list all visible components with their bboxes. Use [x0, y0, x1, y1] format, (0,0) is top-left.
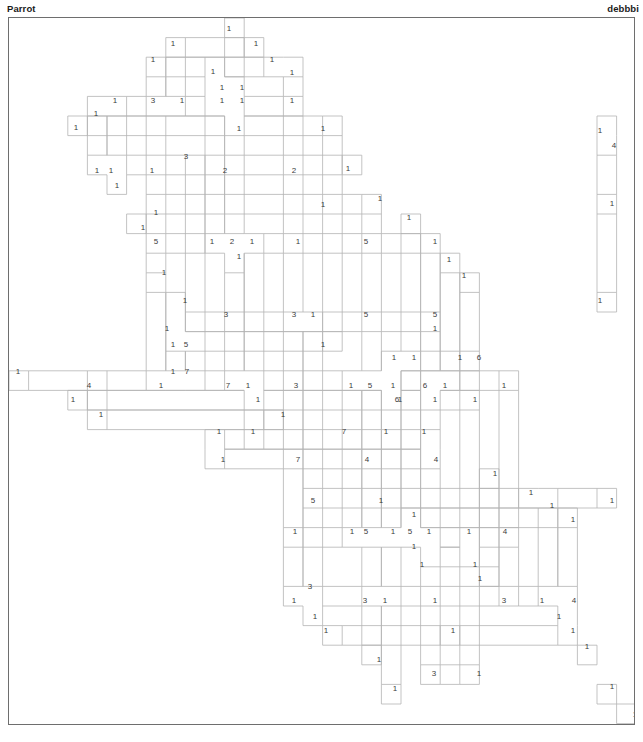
- clue-number[interactable]: 1: [217, 427, 222, 436]
- clue-number[interactable]: 5: [364, 310, 369, 319]
- clue-number[interactable]: 1: [281, 410, 286, 419]
- clue-number[interactable]: 4: [503, 527, 508, 536]
- clue-number[interactable]: 1: [237, 124, 242, 133]
- clue-number[interactable]: 1: [251, 427, 256, 436]
- clue-number[interactable]: 7: [296, 455, 301, 464]
- clue-number[interactable]: 1: [633, 710, 634, 719]
- clue-number[interactable]: 1: [540, 596, 545, 605]
- clue-number[interactable]: 1: [290, 68, 295, 77]
- clue-number[interactable]: 1: [433, 596, 438, 605]
- clue-number[interactable]: 1: [598, 126, 603, 135]
- clue-number[interactable]: 1: [159, 381, 164, 390]
- clue-number[interactable]: 1: [462, 271, 467, 280]
- clue-number[interactable]: 1: [412, 542, 417, 551]
- clue-number[interactable]: 1: [240, 96, 245, 105]
- clue-number[interactable]: 4: [434, 455, 439, 464]
- clue-number[interactable]: 3: [292, 310, 297, 319]
- clue-number[interactable]: 5: [184, 340, 189, 349]
- clue-number[interactable]: 1: [383, 596, 388, 605]
- clue-number[interactable]: 1: [502, 381, 507, 390]
- clue-number[interactable]: 5: [364, 527, 369, 536]
- clue-number[interactable]: 1: [585, 642, 590, 651]
- clue-number[interactable]: 1: [254, 39, 259, 48]
- clue-number[interactable]: 5: [364, 237, 369, 246]
- clue-number[interactable]: 5: [408, 527, 413, 536]
- clue-number[interactable]: 1: [237, 252, 242, 261]
- clue-number[interactable]: 1: [377, 655, 382, 664]
- clue-number[interactable]: 1: [220, 83, 225, 92]
- clue-number[interactable]: 1: [493, 469, 498, 478]
- clue-number[interactable]: 3: [184, 152, 189, 161]
- clue-number[interactable]: 1: [313, 612, 318, 621]
- clue-number[interactable]: 1: [321, 124, 326, 133]
- clue-number[interactable]: 1: [292, 596, 297, 605]
- clue-number[interactable]: 1: [74, 123, 79, 132]
- clue-number[interactable]: 1: [350, 527, 355, 536]
- puzzle-grid-canvas[interactable]: 1111111131111111111131221111111512115111…: [9, 18, 634, 724]
- clue-number[interactable]: 7: [342, 427, 347, 436]
- clue-number[interactable]: 7: [226, 381, 231, 390]
- clue-number[interactable]: 1: [529, 488, 534, 497]
- clue-number[interactable]: 1: [393, 684, 398, 693]
- clue-number[interactable]: 4: [365, 455, 370, 464]
- clue-number[interactable]: 1: [290, 96, 295, 105]
- clue-number[interactable]: 1: [183, 296, 188, 305]
- clue-number[interactable]: 3: [432, 669, 437, 678]
- clue-number[interactable]: 1: [16, 367, 21, 376]
- clue-number[interactable]: 1: [473, 395, 478, 404]
- clue-number[interactable]: 1: [550, 501, 555, 510]
- clue-number[interactable]: 1: [420, 560, 425, 569]
- clue-number[interactable]: 1: [165, 324, 170, 333]
- clue-number[interactable]: 5: [368, 381, 373, 390]
- clue-number[interactable]: 1: [427, 527, 432, 536]
- clue-number[interactable]: 1: [391, 381, 396, 390]
- clue-number[interactable]: 1: [71, 395, 76, 404]
- clue-number[interactable]: 1: [250, 237, 255, 246]
- clue-number[interactable]: 1: [412, 353, 417, 362]
- clue-number[interactable]: 1: [151, 55, 156, 64]
- clue-number[interactable]: 1: [610, 496, 615, 505]
- clue-number[interactable]: 3: [502, 596, 507, 605]
- clue-number[interactable]: 1: [270, 55, 275, 64]
- clue-number[interactable]: 1: [571, 515, 576, 524]
- clue-number[interactable]: 1: [392, 353, 397, 362]
- clue-number[interactable]: 3: [151, 96, 156, 105]
- clue-number[interactable]: 4: [572, 596, 577, 605]
- clue-number[interactable]: 1: [293, 527, 298, 536]
- clue-number[interactable]: 4: [612, 141, 617, 150]
- clue-number[interactable]: 1: [379, 496, 384, 505]
- clue-number[interactable]: 1: [598, 296, 603, 305]
- clue-number[interactable]: 1: [346, 164, 351, 173]
- clue-number[interactable]: 1: [433, 395, 438, 404]
- clue-number[interactable]: 1: [171, 367, 176, 376]
- clue-number[interactable]: 1: [99, 410, 104, 419]
- clue-number[interactable]: 1: [321, 200, 326, 209]
- clue-number[interactable]: 1: [422, 427, 427, 436]
- clue-number[interactable]: 1: [391, 527, 396, 536]
- clue-number[interactable]: 1: [384, 427, 389, 436]
- clue-number[interactable]: 6: [395, 395, 400, 404]
- clue-number[interactable]: 5: [433, 310, 438, 319]
- clue-number[interactable]: 3: [294, 381, 299, 390]
- clue-number[interactable]: 1: [221, 455, 226, 464]
- clue-number[interactable]: 1: [478, 574, 483, 583]
- clue-number[interactable]: 1: [433, 324, 438, 333]
- clue-number[interactable]: 5: [154, 237, 159, 246]
- clue-number[interactable]: 2: [292, 166, 297, 175]
- clue-number[interactable]: 1: [113, 96, 118, 105]
- clue-number[interactable]: 6: [477, 353, 482, 362]
- clue-number[interactable]: 1: [349, 381, 354, 390]
- clue-number[interactable]: 4: [87, 381, 92, 390]
- clue-number[interactable]: 1: [443, 381, 448, 390]
- clue-number[interactable]: 6: [423, 381, 428, 390]
- clue-number[interactable]: 1: [211, 67, 216, 76]
- clue-number[interactable]: 1: [451, 626, 456, 635]
- clue-number[interactable]: 1: [473, 560, 478, 569]
- clue-number[interactable]: 1: [240, 83, 245, 92]
- clue-number[interactable]: 2: [223, 166, 228, 175]
- clue-number[interactable]: 1: [227, 24, 232, 33]
- clue-number[interactable]: 1: [162, 268, 167, 277]
- clue-number[interactable]: 7: [185, 367, 190, 376]
- clue-number[interactable]: 1: [557, 612, 562, 621]
- clue-number[interactable]: 5: [311, 496, 316, 505]
